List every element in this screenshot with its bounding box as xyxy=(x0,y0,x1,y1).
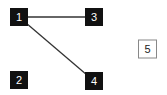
node-label: 4 xyxy=(91,75,97,87)
node-3[interactable]: 3 xyxy=(85,8,103,26)
nodes-layer: 12345 xyxy=(10,8,157,90)
edges-layer xyxy=(19,17,94,81)
node-label: 5 xyxy=(144,43,150,55)
node-2[interactable]: 2 xyxy=(10,71,28,89)
node-label: 1 xyxy=(16,11,22,23)
node-label: 2 xyxy=(16,74,22,86)
graph-diagram: 12345 xyxy=(0,0,167,95)
node-4[interactable]: 4 xyxy=(85,72,103,90)
node-5[interactable]: 5 xyxy=(139,40,157,58)
node-1[interactable]: 1 xyxy=(10,8,28,26)
node-label: 3 xyxy=(91,11,97,23)
edge-1-4 xyxy=(19,17,94,81)
